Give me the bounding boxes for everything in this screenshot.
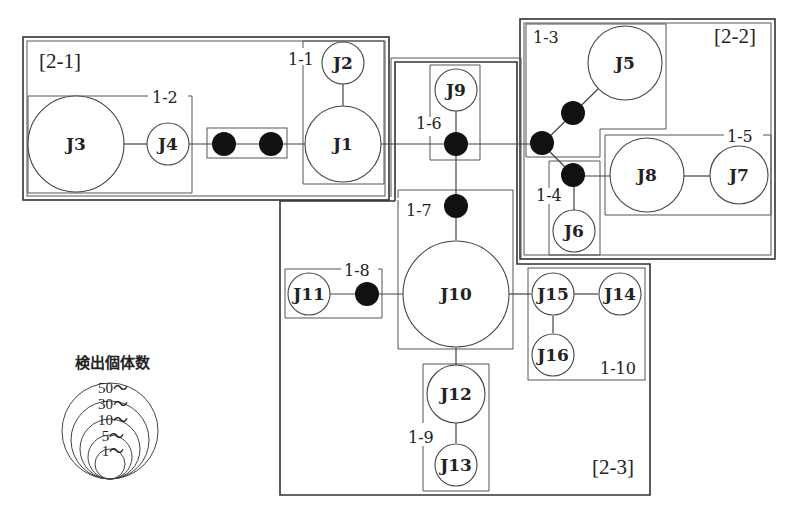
svg-text:J14: J14 <box>602 284 636 304</box>
svg-text:J2: J2 <box>331 53 353 73</box>
node-J2: J2 <box>322 42 364 84</box>
node-J8: J8 <box>610 138 684 212</box>
region-label-2-1: [2-1] <box>39 49 81 73</box>
svg-text:J3: J3 <box>64 134 86 154</box>
svg-text:J9: J9 <box>444 80 466 100</box>
svg-text:J10: J10 <box>438 284 472 304</box>
region-label-2-3: [2-3] <box>592 455 634 479</box>
junction-dot <box>355 282 379 306</box>
group-label-1-4: 1-4 <box>536 186 562 205</box>
legend-tick-50: 50〜 <box>98 380 128 396</box>
legend-tick-10: 10〜 <box>98 412 128 428</box>
node-J9: J9 <box>435 69 477 111</box>
node-J3: J3 <box>28 96 124 192</box>
junction-dot <box>561 101 585 125</box>
group-label-1-7: 1-7 <box>406 201 432 220</box>
node-J1: J1 <box>305 106 381 182</box>
legend-tick-1: 1〜 <box>102 443 125 459</box>
node-J5: J5 <box>588 26 662 100</box>
node-J4: J4 <box>147 123 189 165</box>
group-label-1-5: 1-5 <box>727 127 753 146</box>
node-J15: J15 <box>532 273 574 315</box>
node-J6: J6 <box>553 210 595 252</box>
legend: 検出個体数 50〜 30〜 10〜 5〜 1〜 <box>62 354 158 479</box>
svg-text:J13: J13 <box>438 455 472 475</box>
node-J16: J16 <box>532 334 574 376</box>
svg-text:J7: J7 <box>727 165 749 185</box>
svg-text:J12: J12 <box>438 384 472 404</box>
svg-text:J4: J4 <box>156 134 178 154</box>
junction-dot <box>259 132 283 156</box>
svg-text:J6: J6 <box>562 221 584 241</box>
svg-text:J11: J11 <box>291 284 325 304</box>
svg-text:J15: J15 <box>535 284 569 304</box>
group-label-1-8: 1-8 <box>344 261 370 280</box>
group-label-1-9: 1-9 <box>408 428 434 447</box>
node-J7: J7 <box>710 146 768 204</box>
legend-tick-30: 30〜 <box>98 396 128 412</box>
junction-dot <box>444 132 468 156</box>
group-label-1-6: 1-6 <box>416 114 442 133</box>
junction-dot <box>561 163 585 187</box>
node-J13: J13 <box>435 444 477 486</box>
node-J14: J14 <box>599 273 641 315</box>
node-J10: J10 <box>403 241 509 347</box>
legend-title: 検出個体数 <box>75 354 151 372</box>
junction-dot <box>530 131 554 155</box>
group-label-1-2: 1-2 <box>152 88 178 107</box>
group-label-1-1: 1-1 <box>288 50 314 69</box>
svg-text:J1: J1 <box>331 134 353 154</box>
group-label-1-10: 1-10 <box>600 359 636 378</box>
junction-dot <box>212 132 236 156</box>
region-label-2-2: [2-2] <box>714 24 756 48</box>
node-J11: J11 <box>288 273 330 315</box>
svg-text:J5: J5 <box>613 53 635 73</box>
svg-text:J16: J16 <box>535 345 569 365</box>
group-label-1-3: 1-3 <box>533 28 559 47</box>
svg-text:J8: J8 <box>635 165 657 185</box>
legend-tick-5: 5〜 <box>102 428 125 444</box>
node-J12: J12 <box>427 365 485 423</box>
junction-dot <box>444 194 468 218</box>
network-diagram: [2-1] [2-2] [2-3] 1-1 1-2 1-3 1-4 1-5 <box>0 0 795 505</box>
